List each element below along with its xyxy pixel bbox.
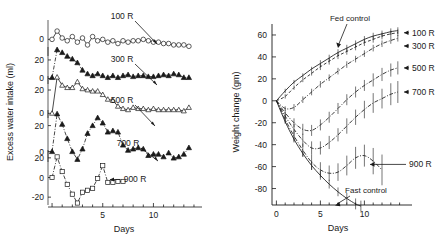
left-marker xyxy=(116,41,121,46)
left-marker xyxy=(55,29,60,34)
left-marker xyxy=(171,71,176,76)
left-marker xyxy=(136,73,141,78)
right-ytick-label: 20 xyxy=(258,74,268,84)
right-xtick-label: 0 xyxy=(274,209,279,219)
left-marker xyxy=(55,47,60,52)
right-ytick-label: -60 xyxy=(255,162,268,172)
left-marker xyxy=(141,37,146,42)
left-marker xyxy=(60,83,65,88)
left-marker xyxy=(166,150,171,155)
left-marker xyxy=(80,146,85,151)
left-marker xyxy=(90,34,95,39)
right-xaxis-title: Days xyxy=(328,223,349,233)
left-ytick-label: 20 xyxy=(35,121,45,131)
left-marker xyxy=(131,105,136,110)
left-ytick-label: 0 xyxy=(39,73,44,83)
left-marker xyxy=(85,131,90,136)
left-ytick-label: -20 xyxy=(32,192,45,202)
left-marker xyxy=(49,75,54,80)
right-annotation-fed-leader xyxy=(338,24,347,46)
left-marker xyxy=(151,106,156,111)
left-marker xyxy=(91,186,95,190)
right-series-300-R xyxy=(276,38,397,109)
left-marker xyxy=(75,60,80,65)
left-marker xyxy=(75,201,79,205)
left-marker xyxy=(100,73,105,78)
left-ytick-label: 20 xyxy=(35,55,45,65)
left-marker xyxy=(55,111,60,116)
right-series-label-300-R: 300 R xyxy=(412,41,435,51)
left-series-label-500-R: 500 R xyxy=(111,95,134,105)
left-marker xyxy=(50,175,54,179)
right-yaxis-title: Weight change (gm) xyxy=(231,72,241,153)
left-marker xyxy=(50,37,55,42)
left-marker xyxy=(146,38,151,43)
left-marker xyxy=(176,154,181,159)
left-leader-arrow xyxy=(153,80,157,85)
left-ytick-label: 0 xyxy=(39,173,44,183)
left-marker xyxy=(186,75,191,80)
left-marker xyxy=(95,71,100,76)
left-marker xyxy=(80,36,85,41)
right-leader-arrow xyxy=(404,44,409,49)
right-annotation-fed-arrow xyxy=(336,43,341,48)
left-yaxis-title: Excess water intake (ml) xyxy=(5,63,15,161)
right-ytick-label: -80 xyxy=(255,184,268,194)
left-marker xyxy=(70,192,74,196)
left-series-label-900-R: 900 R xyxy=(124,174,147,184)
right-series-label-900-R: 900 R xyxy=(409,159,432,169)
left-series-label-700-R: 700 R xyxy=(117,138,140,148)
left-marker xyxy=(70,34,75,39)
right-ytick-label: -20 xyxy=(255,118,268,128)
right-annotation-fast-control: Fast control xyxy=(345,186,387,195)
left-marker xyxy=(95,115,100,120)
left-ytick-label: 0 xyxy=(39,34,44,44)
left-series-label-100-R: 100 R xyxy=(111,11,134,21)
left-leader-arrow xyxy=(154,156,158,161)
left-marker xyxy=(166,41,171,46)
right-ytick-label: 60 xyxy=(258,30,268,40)
left-marker xyxy=(106,180,110,184)
left-marker xyxy=(100,92,105,97)
left-marker xyxy=(85,188,89,192)
right-leader-arrow xyxy=(404,30,409,35)
left-marker xyxy=(60,36,65,41)
left-marker xyxy=(176,72,181,77)
left-marker xyxy=(101,164,105,168)
left-marker xyxy=(70,149,75,154)
left-marker xyxy=(75,40,80,45)
left-ytick-label: 0 xyxy=(39,108,44,118)
left-marker xyxy=(60,122,65,127)
left-marker xyxy=(65,54,70,59)
right-xtick-label: 5 xyxy=(318,209,323,219)
left-marker xyxy=(96,176,100,180)
left-marker xyxy=(65,136,70,141)
left-marker xyxy=(176,43,181,48)
left-marker xyxy=(70,56,75,61)
left-marker xyxy=(75,157,80,162)
left-marker xyxy=(181,152,186,157)
left-marker xyxy=(55,155,59,159)
left-xaxis-title: Days xyxy=(114,224,135,234)
right-leader-arrow xyxy=(404,90,409,95)
left-marker xyxy=(136,38,141,43)
right-series-label-700-R: 700 R xyxy=(412,87,435,97)
left-marker xyxy=(55,75,60,80)
left-marker xyxy=(121,38,126,43)
left-marker xyxy=(116,179,120,183)
left-marker xyxy=(60,50,65,55)
right-annotation-fed-control: Fed control xyxy=(330,14,370,23)
right-series-label-500-R: 500 R xyxy=(412,63,435,73)
left-marker xyxy=(171,43,176,48)
left-marker xyxy=(95,38,100,43)
left-marker xyxy=(85,71,90,76)
left-marker xyxy=(60,170,64,174)
left-marker xyxy=(115,129,120,134)
left-marker xyxy=(65,38,70,43)
left-ytick-label: 20 xyxy=(35,153,45,163)
left-marker xyxy=(126,40,131,45)
left-xtick-label: 5 xyxy=(100,210,105,220)
right-leader-arrow xyxy=(404,66,409,71)
left-marker xyxy=(110,73,115,78)
left-marker xyxy=(80,190,84,194)
